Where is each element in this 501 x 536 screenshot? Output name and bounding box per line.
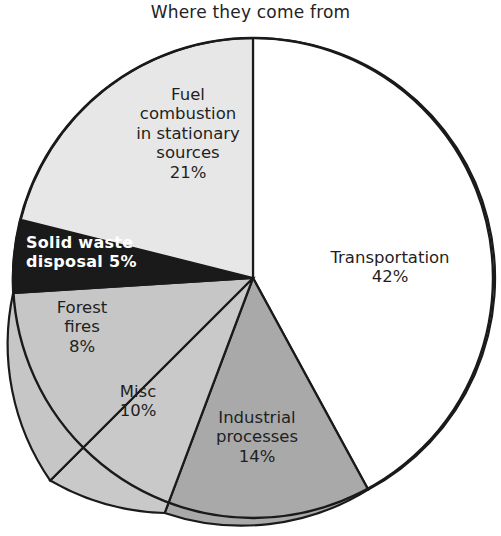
pie-chart-svg: [0, 0, 501, 536]
pie-chart-figure: Where they come from Transportation 42% …: [0, 0, 501, 536]
